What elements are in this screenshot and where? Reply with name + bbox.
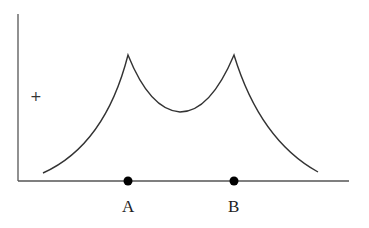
point-b-label: B bbox=[228, 197, 239, 217]
plus-sign-icon: + bbox=[30, 88, 42, 104]
point-a-dot bbox=[124, 177, 133, 186]
point-b-dot bbox=[230, 177, 239, 186]
diagram-canvas bbox=[0, 0, 369, 228]
potential-curve bbox=[43, 55, 318, 173]
point-a-label: A bbox=[122, 197, 134, 217]
